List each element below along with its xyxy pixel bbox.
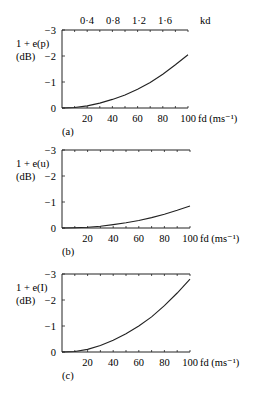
panel-label: (b) [62, 246, 75, 258]
x-tick-label: 100 [182, 233, 198, 244]
x-tick-label: 60 [134, 357, 145, 368]
y-tick-label: −3 [45, 25, 56, 36]
y-axis-unit: (dB) [16, 51, 36, 63]
x-axis-label: fd (ms⁻¹) [198, 113, 238, 125]
x-tick-label: 20 [82, 113, 93, 124]
y-axis-unit: (dB) [16, 171, 36, 183]
panel-label: (c) [62, 370, 74, 382]
x-axis-label: fd (ms⁻¹) [200, 357, 240, 369]
y-axis-unit: (dB) [16, 295, 36, 307]
y-tick-label: −2 [45, 171, 56, 182]
top-tick-label: 1·6 [158, 15, 172, 26]
y-tick-label: −3 [45, 269, 56, 280]
data-curve [62, 206, 190, 228]
y-tick-label: −1 [45, 321, 56, 332]
x-tick-label: 60 [134, 233, 145, 244]
top-axis-label: kd [200, 15, 211, 26]
top-tick-label: 0·4 [80, 15, 95, 26]
x-tick-label: 100 [182, 357, 198, 368]
y-tick-label: 0 [51, 347, 56, 358]
y-tick-label: 0 [51, 223, 56, 234]
x-tick-label: 80 [159, 357, 170, 368]
y-axis-label: 1 + e(u) [16, 158, 50, 170]
panel-label: (a) [62, 126, 74, 138]
y-axis-label: 1 + e(p) [16, 38, 50, 50]
x-tick-label: 20 [82, 233, 93, 244]
chart-panel-a: 0−1−2−320406080100fd (ms⁻¹)1 + e(p)(dB)(… [16, 15, 238, 138]
top-tick-label: 1·2 [132, 15, 146, 26]
y-tick-label: −1 [45, 197, 56, 208]
chart-panel-c: 0−1−2−320406080100fd (ms⁻¹)1 + e(I)(dB)(… [16, 269, 240, 382]
y-tick-label: −2 [45, 51, 56, 62]
x-tick-label: 20 [82, 357, 93, 368]
y-tick-label: −3 [45, 145, 56, 156]
y-tick-label: 0 [51, 103, 56, 114]
y-axis-label: 1 + e(I) [16, 282, 48, 294]
x-tick-label: 40 [108, 233, 119, 244]
x-tick-label: 80 [159, 233, 170, 244]
top-tick-label: 0·8 [106, 15, 120, 26]
x-axis-label: fd (ms⁻¹) [200, 233, 240, 245]
x-tick-label: 60 [132, 113, 143, 124]
x-tick-label: 80 [158, 113, 169, 124]
data-curve [62, 279, 190, 352]
x-tick-label: 100 [180, 113, 196, 124]
y-tick-label: −1 [45, 77, 56, 88]
y-tick-label: −2 [45, 295, 56, 306]
figure: 0−1−2−320406080100fd (ms⁻¹)1 + e(p)(dB)(… [0, 0, 263, 397]
data-curve [62, 55, 188, 108]
chart-panel-b: 0−1−2−320406080100fd (ms⁻¹)1 + e(u)(dB)(… [16, 145, 240, 258]
x-tick-label: 40 [108, 357, 119, 368]
x-tick-label: 40 [107, 113, 118, 124]
